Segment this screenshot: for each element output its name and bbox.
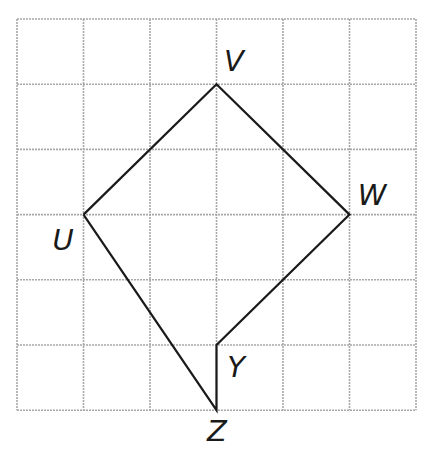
label-W: W [358,181,387,210]
label-U: U [52,226,73,255]
label-V: V [224,47,244,76]
label-Y: Y [227,353,245,382]
label-Z: Z [207,417,227,446]
